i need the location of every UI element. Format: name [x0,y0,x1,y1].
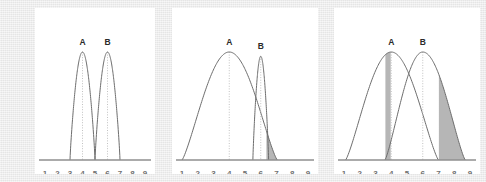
x-tick-label-1: 1 [180,169,185,174]
x-tick-label-8: 8 [130,169,135,174]
x-tick-label-7: 7 [436,169,441,174]
distribution-curve-B [253,56,269,160]
x-tick-label-4: 4 [227,169,232,174]
x-tick-label-3: 3 [68,169,73,174]
chart-svg: AB123456789 [35,8,155,174]
x-tick-label-9: 9 [306,169,311,174]
x-tick-label-1: 1 [342,169,347,174]
chart-panel-3: AB123456789 [334,8,480,174]
x-tick-label-4: 4 [80,169,85,174]
peak-label-A: A [226,37,232,47]
peak-label-A: A [79,37,85,47]
x-tick-label-2: 2 [358,169,363,174]
x-tick-label-4: 4 [389,169,394,174]
chart-svg: AB123456789 [172,8,318,174]
x-tick-label-8: 8 [452,169,457,174]
x-tick-label-3: 3 [373,169,378,174]
x-tick-label-3: 3 [211,169,216,174]
x-tick-label-6: 6 [421,169,426,174]
x-tick-label-2: 2 [196,169,201,174]
x-tick-label-2: 2 [55,169,60,174]
x-tick-label-7: 7 [274,169,279,174]
x-tick-label-7: 7 [118,169,123,174]
chart-panel-1: AB123456789 [35,8,155,174]
x-tick-label-9: 9 [143,169,148,174]
x-tick-label-6: 6 [105,169,110,174]
x-tick-label-5: 5 [243,169,248,174]
x-tick-label-9: 9 [468,169,473,174]
x-tick-label-5: 5 [405,169,410,174]
peak-label-B: B [258,41,264,51]
peak-label-B: B [420,37,426,47]
peak-label-A: A [388,37,394,47]
panel-row: AB123456789 AB123456789 AB123456789 [0,0,486,182]
x-tick-label-6: 6 [259,169,264,174]
chart-svg: AB123456789 [334,8,480,174]
x-tick-label-5: 5 [93,169,98,174]
distribution-curve-A [346,52,439,160]
x-tick-label-8: 8 [290,169,295,174]
chart-panel-2: AB123456789 [172,8,318,174]
peak-label-B: B [104,37,110,47]
x-tick-label-1: 1 [43,169,48,174]
